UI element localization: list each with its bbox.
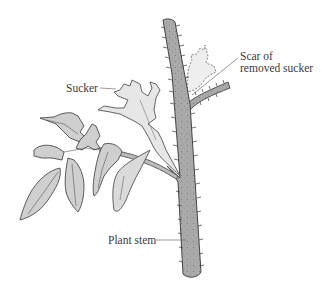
leader-sucker bbox=[100, 88, 116, 89]
label-sucker: Sucker bbox=[66, 82, 98, 94]
removed-sucker-ghost bbox=[187, 45, 216, 92]
label-plant-stem: Plant stem bbox=[108, 234, 156, 246]
label-scar-line2: removed sucker bbox=[240, 62, 313, 74]
label-scar-of-removed-sucker: Scar of removed sucker bbox=[240, 50, 313, 74]
tomato-sucker-diagram bbox=[0, 0, 322, 282]
leaf-center-hanging bbox=[65, 158, 84, 212]
leaf-top-left bbox=[40, 113, 86, 142]
leaf-far-left bbox=[20, 168, 60, 220]
leaf-mid-left bbox=[34, 145, 64, 160]
label-scar-line1: Scar of bbox=[240, 50, 313, 62]
